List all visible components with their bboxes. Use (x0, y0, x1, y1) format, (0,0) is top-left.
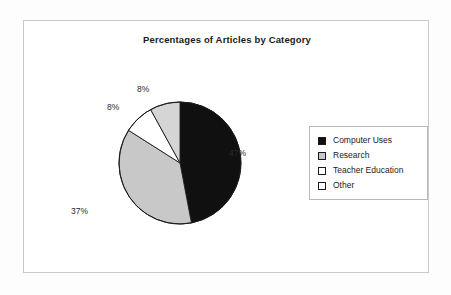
slice-label-research: 37% (71, 206, 88, 216)
chart-legend: Computer Uses Research Teacher Education… (309, 126, 428, 200)
legend-item-research[interactable]: Research (318, 148, 420, 163)
slice-label-computer-uses: 47% (229, 148, 246, 158)
slice-label-teacher-education: 8% (107, 102, 119, 112)
pie-slice[interactable] (180, 102, 241, 223)
chart-title: Percentages of Articles by Category (24, 34, 430, 45)
legend-item-teacher-education[interactable]: Teacher Education (318, 163, 420, 178)
pie-chart (115, 98, 245, 228)
legend-label: Research (333, 151, 369, 160)
legend-item-computer-uses[interactable]: Computer Uses (318, 133, 420, 148)
legend-swatch-icon (318, 152, 326, 160)
legend-swatch-icon (318, 137, 326, 145)
legend-swatch-icon (318, 182, 326, 190)
legend-label: Other (333, 181, 354, 190)
legend-swatch-icon (318, 167, 326, 175)
legend-label: Teacher Education (333, 166, 403, 175)
chart-frame: Percentages of Articles by Category 47% … (23, 20, 429, 273)
legend-item-other[interactable]: Other (318, 178, 420, 193)
pie-svg (115, 98, 245, 228)
scanned-page: Percentages of Articles by Category 47% … (0, 0, 451, 295)
legend-label: Computer Uses (333, 136, 392, 145)
slice-label-other: 8% (137, 84, 149, 94)
